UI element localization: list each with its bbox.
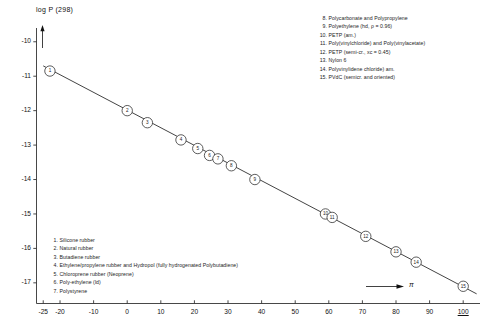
legend-item-number: 2.: [52, 244, 58, 252]
legend-upper: 8.Polycarbonate and Polypropylene9.Polye…: [318, 14, 425, 81]
x-tick-label: 70: [348, 308, 376, 315]
y-tick-label: -14: [8, 175, 31, 182]
legend-item: 14.Polyvinylidene chloride) am.: [318, 65, 425, 73]
data-point-marker[interactable]: [176, 135, 186, 145]
legend-item: 8.Polycarbonate and Polypropylene: [318, 14, 425, 22]
x-tick-label: 0: [113, 308, 141, 315]
legend-item-number: 7.: [52, 287, 58, 295]
legend-item-label: Polyethylene (hd, ρ = 0.96): [329, 23, 393, 29]
data-point-marker[interactable]: [361, 231, 371, 241]
data-point-marker[interactable]: [250, 174, 260, 184]
legend-item-label: Polycarbonate and Polypropylene: [329, 15, 408, 21]
legend-item-number: 9.: [318, 22, 327, 30]
legend-item-label: Nylon 6: [329, 57, 347, 63]
legend-item: 9.Polyethylene (hd, ρ = 0.96): [318, 22, 425, 30]
legend-item: 4.Ethylene/propylene rubber and Hydropol…: [52, 261, 238, 269]
y-tick-label: -13: [8, 141, 31, 148]
y-tick-label: -17: [8, 278, 31, 285]
legend-item-label: Poly-ethylene (ld): [60, 279, 101, 285]
x-axis-title: π: [409, 281, 414, 288]
legend-item: 13.Nylon 6: [318, 56, 425, 64]
legend-item-label: PETP (am.): [329, 32, 357, 38]
legend-item: 1.Silicone rubber: [52, 236, 238, 244]
x-tick-label: -10: [80, 308, 108, 315]
x-tick-label: 10: [147, 308, 175, 315]
x-tick-label: 80: [382, 308, 410, 315]
legend-item: 3.Butadiene rubber: [52, 253, 238, 261]
x-tick-label: 20: [180, 308, 208, 315]
legend-item-number: 1.: [52, 236, 58, 244]
y-tick-label: -11: [8, 72, 31, 79]
legend-item-label: Silicone rubber: [60, 237, 95, 243]
legend-item-number: 5.: [52, 270, 58, 278]
data-point-marker[interactable]: [45, 66, 55, 76]
data-point-marker[interactable]: [193, 143, 203, 153]
legend-item-label: Ethylene/propylene rubber and Hydropol (…: [60, 262, 239, 268]
legend-item-number: 15.: [318, 73, 327, 81]
legend-item-label: PETP (semi-cr., xᴄ = 0.45): [329, 49, 391, 55]
legend-item-number: 4.: [52, 261, 58, 269]
y-tick-label: -10: [8, 37, 31, 44]
x-tick-label: -20: [46, 308, 74, 315]
legend-item: 2.Natural rubber: [52, 244, 238, 252]
legend-item: 15.PVdC (semicr. and oriented): [318, 73, 425, 81]
data-point-marker[interactable]: [226, 161, 236, 171]
x-tick-label: 60: [315, 308, 343, 315]
legend-item-label: Butadiene rubber: [60, 254, 101, 260]
y-tick-label: -12: [8, 106, 31, 113]
x-tick-label: 30: [214, 308, 242, 315]
legend-item-label: Chloroprene rubber (Neoprene): [60, 271, 134, 277]
y-axis-arrow: [40, 25, 44, 48]
legend-item-label: Polyvinylidene chloride) am.: [329, 66, 395, 72]
data-point-marker[interactable]: [327, 212, 337, 222]
data-point-marker[interactable]: [122, 105, 132, 115]
x-tick-label: 90: [416, 308, 444, 315]
legend-item: 10.PETP (am.): [318, 31, 425, 39]
data-point-marker[interactable]: [391, 247, 401, 257]
legend-item-number: 10.: [318, 31, 327, 39]
x-arrow-head: [397, 284, 405, 289]
legend-item-number: 8.: [318, 14, 327, 22]
y-axis-title: log P (298): [36, 6, 73, 13]
legend-item-number: 3.: [52, 253, 58, 261]
legend-item: 5.Chloroprene rubber (Neoprene): [52, 270, 238, 278]
legend-item: 7.Polystyrene: [52, 287, 238, 295]
legend-item-number: 6.: [52, 278, 58, 286]
legend-item-label: PVdC (semicr. and oriented): [329, 74, 396, 80]
legend-item-label: Polystyrene: [60, 288, 88, 294]
legend-lower: 1.Silicone rubber2.Natural rubber3.Butad…: [52, 236, 238, 295]
legend-item-number: 14.: [318, 65, 327, 73]
y-tick-label: -15: [8, 210, 31, 217]
x-tick-label: 100: [449, 308, 477, 315]
data-point-marker[interactable]: [411, 257, 421, 267]
legend-item: 12.PETP (semi-cr., xᴄ = 0.45): [318, 48, 425, 56]
x-tick-label: 40: [248, 308, 276, 315]
data-point-marker[interactable]: [142, 118, 152, 128]
x-tick-label: 50: [281, 308, 309, 315]
legend-item: 6.Poly-ethylene (ld): [52, 278, 238, 286]
data-point-marker[interactable]: [213, 154, 223, 164]
legend-item: 11.Poly(vinylchloride) and Poly(vinylace…: [318, 39, 425, 47]
data-point-marker[interactable]: [458, 281, 468, 291]
legend-item-label: Natural rubber: [60, 245, 94, 251]
legend-item-number: 11.: [318, 39, 327, 47]
legend-item-number: 12.: [318, 48, 327, 56]
chart-figure: log P (298) -10-11-12-13-14-15-16-17 -25…: [0, 0, 485, 331]
y-tick-label: -16: [8, 244, 31, 251]
legend-item-label: Poly(vinylchloride) and Poly(vinylacetat…: [329, 40, 426, 46]
legend-item-number: 13.: [318, 56, 327, 64]
y-arrow-head: [40, 25, 44, 31]
x-axis-arrow: [366, 284, 404, 289]
